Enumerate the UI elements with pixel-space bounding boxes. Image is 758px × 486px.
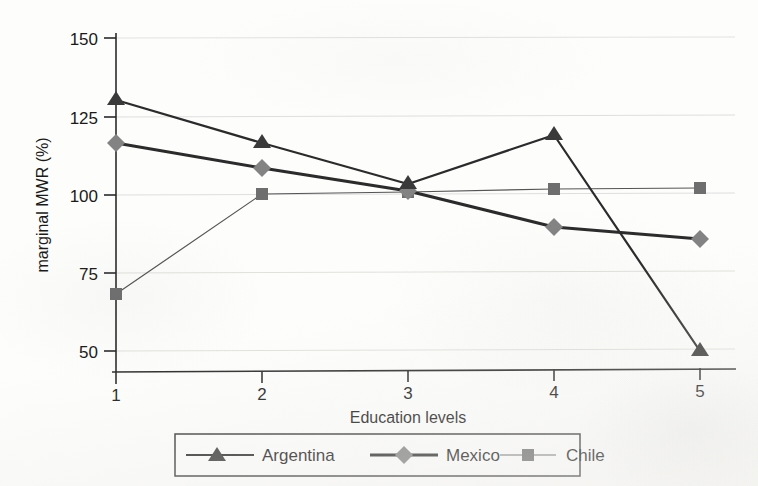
series-argentina-line — [116, 100, 700, 351]
legend-item-chile[interactable]: Chile — [500, 446, 605, 465]
x-tick-labels: 1 2 3 4 5 — [111, 382, 704, 405]
data-point-mexico-2 — [253, 159, 271, 177]
legend-label-mexico: Mexico — [446, 446, 500, 465]
y-tick-marks — [104, 38, 116, 351]
data-point-chile-4 — [548, 183, 560, 195]
legend-label-chile: Chile — [566, 446, 605, 465]
legend-label-argentina: Argentina — [262, 446, 335, 465]
data-point-argentina-4 — [545, 126, 563, 140]
series-argentina — [107, 91, 709, 356]
chart-page: 150 125 100 75 50 1 2 3 4 5 marginal MWR… — [0, 0, 758, 486]
y-tick-labels: 150 125 100 75 50 — [70, 30, 98, 362]
x-tick-label-4: 4 — [549, 383, 558, 402]
gridline-150 — [116, 37, 735, 38]
x-tick-label-3: 3 — [403, 384, 412, 403]
x-axis-title: Education levels — [350, 409, 467, 426]
x-tick-label-5: 5 — [695, 382, 704, 401]
data-point-chile-1 — [110, 288, 122, 300]
gridline-125 — [116, 115, 735, 117]
legend-item-argentina[interactable]: Argentina — [186, 446, 335, 465]
data-point-chile-5 — [694, 182, 706, 194]
y-tick-label-125: 125 — [70, 109, 98, 128]
x-axis-line — [112, 369, 736, 372]
axis-lines — [112, 33, 736, 372]
chart-legend: Argentina Mexico Chile — [175, 434, 605, 476]
x-tick-label-2: 2 — [257, 385, 266, 404]
y-tick-label-150: 150 — [70, 30, 98, 49]
data-point-mexico-4 — [545, 218, 563, 236]
diamond-icon — [395, 446, 413, 464]
y-tick-label-75: 75 — [79, 265, 98, 284]
y-axis-title: marginal MWR (%) — [34, 137, 51, 272]
data-point-mexico-5 — [691, 230, 709, 248]
y-tick-label-50: 50 — [79, 343, 98, 362]
x-tick-label-1: 1 — [111, 386, 120, 405]
data-point-argentina-1 — [107, 91, 125, 105]
legend-item-mexico[interactable]: Mexico — [370, 446, 500, 465]
x-tick-marks — [116, 368, 700, 384]
square-icon — [522, 449, 534, 461]
marginal-mwr-line-chart: 150 125 100 75 50 1 2 3 4 5 marginal MWR… — [0, 0, 758, 486]
series-chile-line — [116, 188, 700, 294]
gridline-50 — [116, 349, 735, 351]
y-tick-label-100: 100 — [70, 187, 98, 206]
gridline-75 — [116, 271, 735, 273]
data-point-chile-2 — [256, 188, 268, 200]
data-point-mexico-1 — [107, 134, 125, 152]
